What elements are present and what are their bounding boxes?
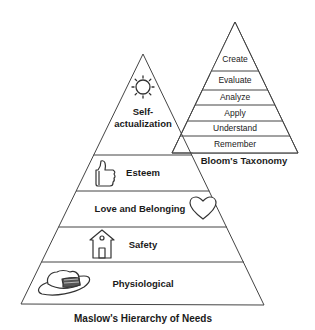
bloom-level-apply: Apply [224, 108, 245, 118]
bloom-title: Bloom's Taxonomy [201, 155, 288, 166]
maslow-level-safety: Safety [129, 239, 158, 250]
maslow-level-physiological: Physiological [112, 278, 173, 289]
bloom-level-evaluate: Evaluate [218, 75, 251, 85]
maslow-level-love-belonging: Love and Belonging [95, 203, 186, 214]
bloom-level-analyze: Analyze [220, 92, 250, 102]
self-actualization-line1: Self- [114, 106, 172, 118]
maslow-title: Maslow's Hierarchy of Needs [74, 313, 212, 324]
maslow-level-esteem: Esteem [126, 167, 160, 178]
bloom-level-create: Create [222, 54, 248, 64]
maslow-level-self-actualization: Self- actualization [114, 106, 172, 130]
self-actualization-line2: actualization [114, 118, 172, 130]
bloom-level-remember: Remember [214, 139, 256, 149]
bloom-level-understand: Understand [213, 123, 257, 133]
